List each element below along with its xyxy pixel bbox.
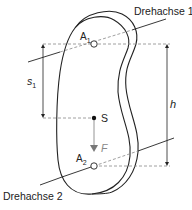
axis-2-label: Drehachse 2 [3,190,63,202]
center-of-mass-dot [92,116,96,120]
axis-1-label: Drehachse 1 [134,5,192,17]
pendulum-diagram: Drehachse 1 Drehachse 2 A1 A2 S F s1 h [0,0,192,210]
distance-h-label: h [170,98,176,110]
pivot-a2-circle [91,163,97,169]
rotation-axis-2-outside-right [138,138,174,151]
rotation-axis-1-outside-right [132,19,166,30]
rotation-axis-2-outside-left [40,177,62,185]
rotation-axis-1-outside-left [28,52,60,62]
force-label: F [101,142,108,154]
center-of-mass-label: S [101,112,108,124]
pivot-a1-circle [91,41,97,47]
distance-s1-label: s1 [27,75,36,89]
